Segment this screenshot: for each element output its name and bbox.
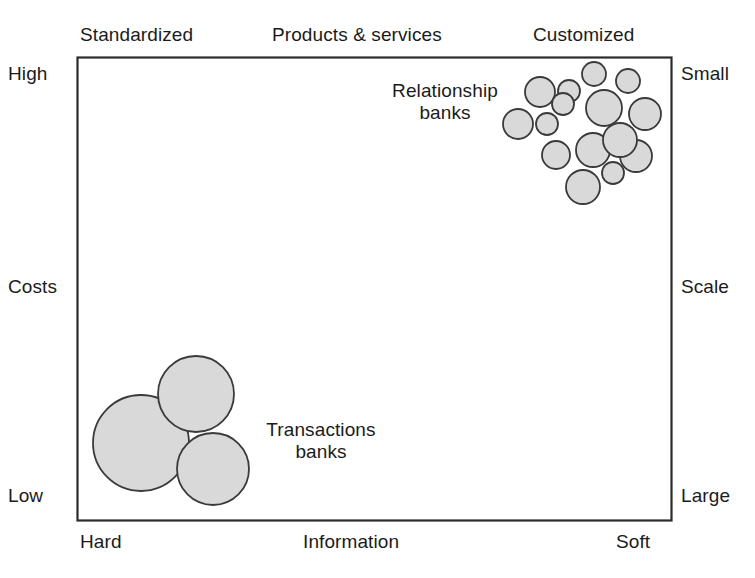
axis-title-scale: Scale	[681, 276, 729, 298]
bubble-marker	[602, 162, 624, 184]
bubble-marker	[525, 77, 555, 107]
axis-label-costs-low: Low	[8, 485, 43, 507]
axis-title-information: Information	[303, 531, 399, 553]
bubble-marker	[177, 433, 249, 505]
annotation-transactions-line1: Transactions	[266, 419, 375, 440]
bubble-marker	[629, 98, 661, 130]
bank-positioning-figure: Standardized Products & services Customi…	[0, 0, 755, 578]
axis-title-costs: Costs	[8, 276, 57, 298]
annotation-transactions-line2: banks	[251, 441, 391, 463]
annotation-relationship-line1: Relationship	[392, 80, 498, 101]
series-relationship-banks	[503, 62, 661, 204]
plot-canvas	[0, 0, 755, 578]
bubble-marker	[552, 93, 574, 115]
bubble-marker	[616, 69, 640, 93]
axis-label-products-customized: Customized	[533, 24, 634, 46]
axis-label-products-standardized: Standardized	[80, 24, 193, 46]
annotation-transactions-banks: Transactions banks	[251, 419, 391, 464]
axis-label-costs-high: High	[8, 63, 47, 85]
bubble-marker	[158, 356, 234, 432]
bubble-marker	[603, 123, 637, 157]
series-transactions-banks	[93, 356, 249, 505]
annotation-relationship-banks: Relationship banks	[383, 80, 507, 125]
bubble-marker	[586, 90, 622, 126]
axis-label-information-hard: Hard	[80, 531, 122, 553]
axis-label-scale-small: Small	[681, 63, 729, 85]
axis-label-information-soft: Soft	[616, 531, 650, 553]
axis-label-scale-large: Large	[681, 485, 730, 507]
bubble-marker	[536, 113, 558, 135]
bubble-marker	[582, 62, 606, 86]
bubble-marker	[566, 170, 600, 204]
axis-title-products-services: Products & services	[272, 24, 442, 46]
annotation-relationship-line2: banks	[383, 102, 507, 124]
bubble-marker	[503, 109, 533, 139]
bubble-marker	[542, 141, 570, 169]
